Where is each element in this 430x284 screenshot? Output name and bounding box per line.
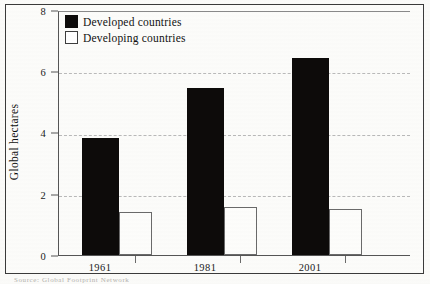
x-tick-mark-2: [240, 256, 241, 263]
gridline-4: [59, 135, 410, 136]
y-tick-mark-6: [51, 72, 58, 73]
legend-swatch-filled-square-icon: [65, 15, 78, 28]
bar-developed-2001: [292, 58, 329, 255]
bar-developing-1961: [119, 212, 152, 255]
y-tick-label-2: 2: [41, 190, 46, 201]
bar-developed-1981: [187, 88, 224, 255]
x-tick-label-1981: 1981: [194, 262, 217, 273]
y-tick-mark-8: [51, 11, 58, 12]
x-tick-label-1961: 1961: [89, 262, 112, 273]
x-tick-label-2001: 2001: [299, 262, 322, 273]
chart-legend: Developed countries Developing countries: [65, 15, 186, 44]
y-tick-label-4: 4: [41, 128, 46, 139]
legend-item-developing: Developing countries: [65, 31, 186, 44]
legend-label-developed: Developed countries: [83, 16, 182, 28]
x-tick-mark-3: [345, 256, 346, 263]
y-tick-mark-0: [51, 256, 58, 257]
y-tick-mark-4: [51, 133, 58, 134]
plot-area: Developed countries Developing countries: [58, 11, 410, 256]
x-tick-mark-1: [135, 256, 136, 263]
y-axis: Global hectares 8 6 4 2 0: [0, 0, 58, 284]
legend-item-developed: Developed countries: [65, 15, 186, 28]
gridline-6: [59, 73, 410, 74]
bar-developed-1961: [82, 138, 119, 255]
bar-developing-2001: [329, 209, 362, 255]
figure-page: Global hectares 8 6 4 2 0 Developed coun: [0, 0, 430, 284]
y-tick-label-0: 0: [41, 251, 46, 262]
y-axis-title: Global hectares: [8, 104, 20, 180]
y-tick-label-6: 6: [41, 67, 46, 78]
bar-developing-1981: [224, 207, 257, 255]
legend-label-developing: Developing countries: [83, 32, 186, 44]
source-caption: Source: Global Footprint Network: [14, 276, 414, 284]
y-tick-label-8: 8: [41, 6, 46, 17]
y-tick-mark-2: [51, 195, 58, 196]
legend-swatch-hollow-square-icon: [65, 31, 78, 44]
